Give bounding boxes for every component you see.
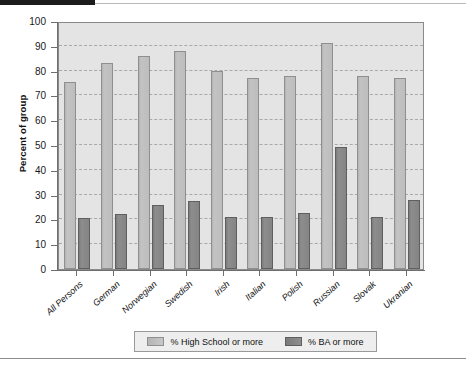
plot-area	[58, 22, 424, 270]
x-axis-tick	[186, 271, 187, 276]
y-axis-tick	[51, 245, 57, 246]
bar-high-school	[101, 63, 113, 269]
y-axis-tick	[51, 72, 57, 73]
legend-swatch-ba	[285, 337, 302, 346]
x-axis-tick	[223, 271, 224, 276]
bar-high-school	[138, 56, 150, 269]
bar-high-school	[247, 78, 259, 269]
y-axis-tick	[51, 196, 57, 197]
bar-high-school	[357, 76, 369, 269]
legend-label-ba: % BA or more	[308, 337, 364, 347]
y-axis-tick	[51, 22, 57, 23]
bar-ba	[298, 213, 310, 269]
y-axis-tick-label: 10	[0, 240, 46, 250]
bar-ba	[408, 200, 420, 269]
bar-high-school	[174, 51, 186, 269]
x-axis-tick	[76, 271, 77, 276]
bar-ba	[152, 205, 164, 269]
y-axis-tick-label: 90	[0, 42, 46, 52]
bar-ba	[225, 217, 237, 269]
x-axis-tick	[150, 271, 151, 276]
legend-swatch-high-school	[147, 337, 164, 346]
y-axis-tick	[51, 146, 57, 147]
bar-ba	[115, 214, 127, 269]
chart-legend: % High School or more % BA or more	[134, 331, 377, 352]
x-axis-tick	[296, 271, 297, 276]
bar-high-school	[321, 43, 333, 269]
y-axis-tick-label: 0	[0, 265, 46, 275]
y-axis-tick	[51, 96, 57, 97]
x-axis-tick	[113, 271, 114, 276]
legend-label-high-school: % High School or more	[170, 337, 263, 347]
legend-item-high-school: % High School or more	[147, 337, 263, 347]
bar-ba	[78, 218, 90, 269]
bar-chart-figure: 0102030405060708090100 Percent of group …	[0, 0, 466, 374]
bar-ba	[261, 217, 273, 269]
x-axis-tick	[333, 271, 334, 276]
bar-high-school	[284, 76, 296, 269]
footer-rule	[0, 358, 466, 359]
bar-ba	[335, 147, 347, 269]
y-axis-tick	[51, 171, 57, 172]
y-axis-tick-label: 20	[0, 215, 46, 225]
bar-high-school	[64, 82, 76, 269]
x-axis-tick	[259, 271, 260, 276]
y-axis-tick	[51, 220, 57, 221]
gridline	[59, 45, 423, 46]
bar-high-school	[211, 71, 223, 269]
x-axis-tick	[406, 271, 407, 276]
y-axis-tick-label: 100	[0, 17, 46, 27]
y-axis-line	[57, 22, 58, 271]
bar-high-school	[394, 78, 406, 269]
y-axis-tick	[51, 47, 57, 48]
y-axis-title: Percent of group	[17, 74, 28, 194]
y-axis-tick	[51, 121, 57, 122]
bar-ba	[371, 217, 383, 269]
gridline	[59, 70, 423, 71]
legend-item-ba: % BA or more	[285, 337, 364, 347]
bar-ba	[188, 201, 200, 269]
x-axis-tick	[369, 271, 370, 276]
